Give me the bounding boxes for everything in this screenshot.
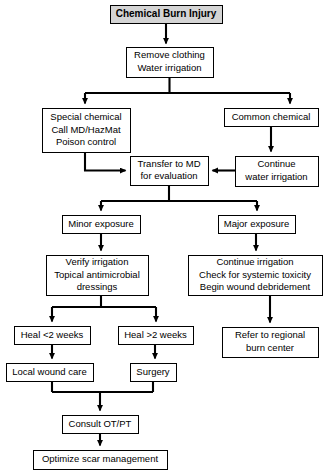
flow-node-verify-irrigation: Verify irrigationTopical antimicrobialdr… bbox=[47, 256, 149, 296]
flow-node-label: Optimize scar management bbox=[42, 453, 159, 464]
flow-node-label: Heal >2 weeks bbox=[124, 329, 187, 340]
flow-node-label: Major exposure bbox=[224, 218, 289, 229]
flow-node-label: Continue bbox=[257, 158, 295, 169]
flow-node-label: Consult OT/PT bbox=[69, 418, 132, 429]
flow-node-heal-less-2-weeks: Heal <2 weeks bbox=[15, 327, 91, 345]
flow-node-label: Remove clothing bbox=[134, 49, 205, 60]
edge-merge-bar bbox=[52, 381, 153, 392]
flow-node-common-chemical: Common chemical bbox=[225, 109, 319, 127]
flow-node-label: Transfer to MD bbox=[138, 158, 201, 169]
flow-node-label: Refer to regional bbox=[235, 329, 305, 340]
flow-node-continue-water-irrigation: Continuewater irrigation bbox=[236, 157, 319, 187]
flow-node-consult-ot-pt: Consult OT/PT bbox=[63, 416, 139, 434]
flow-node-label: Topical antimicrobial bbox=[54, 269, 140, 280]
flow-node-label: Call MD/HazMat bbox=[51, 124, 121, 135]
flow-node-label: Chemical Burn Injury bbox=[116, 8, 217, 19]
flow-node-label: Water irrigation bbox=[137, 62, 201, 73]
flow-node-label: Special chemical bbox=[50, 111, 121, 122]
flow-node-label: Common chemical bbox=[232, 111, 311, 122]
flow-node-label: Poison control bbox=[56, 136, 116, 147]
flow-node-special-chemical: Special chemicalCall MD/HazMatPoison con… bbox=[43, 109, 131, 153]
flow-node-label: for evaluation bbox=[140, 170, 197, 181]
edge-special-to-transfer bbox=[85, 152, 126, 171]
flow-node-chemical-burn-injury: Chemical Burn Injury bbox=[111, 6, 223, 24]
flow-node-optimize-scar-management: Optimize scar management bbox=[34, 451, 168, 470]
node-layer: Chemical Burn InjuryRemove clothingWater… bbox=[7, 6, 323, 470]
flow-node-local-wound-care: Local wound care bbox=[7, 364, 94, 382]
edge-transfer-split-left bbox=[101, 185, 257, 211]
flow-node-transfer-to-md: Transfer to MDfor evaluation bbox=[131, 157, 209, 186]
flow-node-major-exposure: Major exposure bbox=[219, 216, 296, 234]
flow-node-label: Local wound care bbox=[12, 366, 86, 377]
flowchart-canvas: Chemical Burn InjuryRemove clothingWater… bbox=[0, 0, 325, 475]
flow-node-refer-to-regional-burn-center: Refer to regionalburn center bbox=[223, 328, 319, 358]
flow-node-label: dressings bbox=[77, 281, 118, 292]
edge-remove-split-left bbox=[85, 77, 290, 104]
flow-node-surgery: Surgery bbox=[131, 364, 177, 382]
flow-node-label: Continue irrigation bbox=[216, 256, 293, 267]
flow-node-label: Surgery bbox=[136, 366, 170, 377]
flow-node-label: Minor exposure bbox=[68, 218, 133, 229]
flow-node-label: Heal <2 weeks bbox=[21, 329, 84, 340]
flow-node-label: water irrigation bbox=[244, 171, 307, 182]
flow-node-label: Begin wound debridement bbox=[200, 281, 311, 292]
flow-node-label: Check for systemic toxicity bbox=[199, 269, 311, 280]
flow-node-heal-more-2-weeks: Heal >2 weeks bbox=[119, 327, 194, 345]
flow-node-remove-clothing: Remove clothingWater irrigation bbox=[127, 48, 214, 78]
edge-verify-split-left bbox=[52, 295, 156, 322]
flow-node-label: burn center bbox=[246, 342, 294, 353]
flow-node-label: Verify irrigation bbox=[66, 256, 129, 267]
flow-node-minor-exposure: Minor exposure bbox=[63, 216, 141, 234]
edge-layer bbox=[52, 23, 290, 446]
flowchart-container: Chemical Burn InjuryRemove clothingWater… bbox=[0, 0, 325, 475]
flow-node-continue-irrigation: Continue irrigationCheck for systemic to… bbox=[189, 256, 323, 296]
